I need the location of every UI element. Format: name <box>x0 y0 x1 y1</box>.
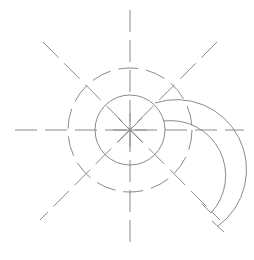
outer-arc <box>155 100 247 226</box>
arcs <box>155 100 247 232</box>
diagram-svg <box>0 0 254 260</box>
diagram-canvas <box>0 0 254 260</box>
inner-arc-end-tick <box>202 204 211 213</box>
inner-arc <box>164 121 226 213</box>
center-star <box>113 113 147 147</box>
